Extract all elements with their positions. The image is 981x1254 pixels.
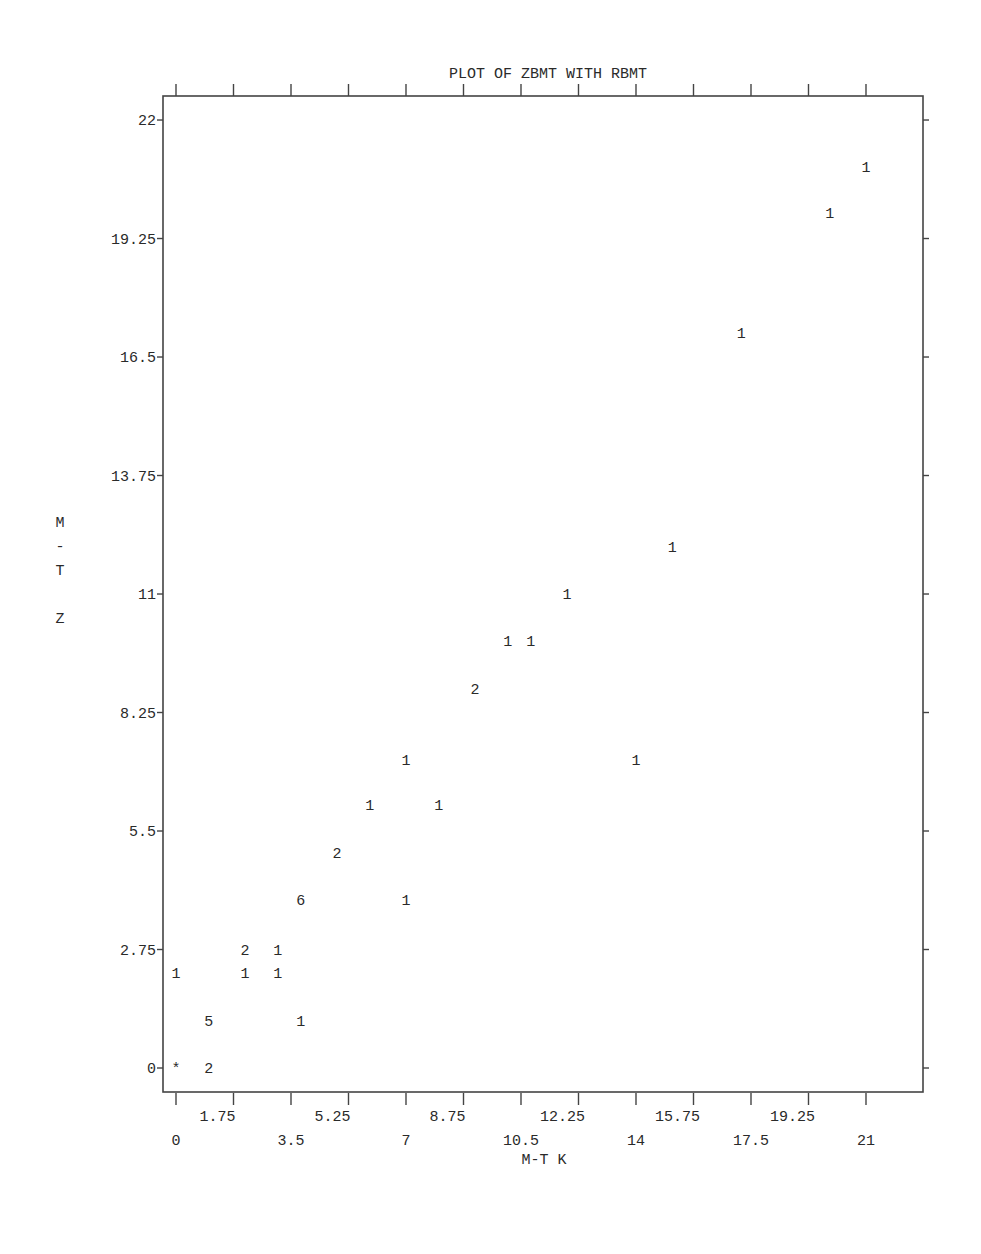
data-point: 1 bbox=[861, 160, 870, 177]
x-tick-label: 19.25 bbox=[770, 1109, 815, 1126]
data-points: *25111121612111121111111 bbox=[171, 160, 870, 1078]
data-point: 1 bbox=[273, 943, 282, 960]
y-axis-ticks: 02.755.58.251113.7516.519.2522 bbox=[111, 113, 163, 1078]
x-tick-label: 7 bbox=[401, 1133, 410, 1150]
x-tick-label: 14 bbox=[627, 1133, 645, 1150]
chart-title: PLOT OF ZBMT WITH RBMT bbox=[449, 66, 647, 83]
data-point: 1 bbox=[526, 634, 535, 651]
data-point: 2 bbox=[204, 1061, 213, 1078]
x-tick-label: 10.5 bbox=[503, 1133, 539, 1150]
scatter-chart: PLOT OF ZBMT WITH RBMT 01.753.55.2578.75… bbox=[0, 0, 981, 1254]
x-axis-ticks: 01.753.55.2578.7510.512.251415.7517.519.… bbox=[171, 1093, 875, 1150]
y-label-char: T bbox=[55, 563, 64, 580]
top-axis-ticks bbox=[176, 84, 866, 96]
x-tick-label: 0 bbox=[171, 1133, 180, 1150]
data-point: 1 bbox=[365, 798, 374, 815]
y-tick-label: 13.75 bbox=[111, 469, 156, 486]
data-point: 1 bbox=[668, 540, 677, 557]
y-label-char: Z bbox=[55, 611, 64, 628]
x-tick-label: 17.5 bbox=[733, 1133, 769, 1150]
x-tick-label: 21 bbox=[857, 1133, 875, 1150]
data-point: 1 bbox=[296, 1014, 305, 1031]
data-point: 1 bbox=[503, 634, 512, 651]
y-tick-label: 19.25 bbox=[111, 232, 156, 249]
x-tick-label: 1.75 bbox=[199, 1109, 235, 1126]
data-point: 1 bbox=[825, 206, 834, 223]
x-tick-label: 3.5 bbox=[277, 1133, 304, 1150]
data-point: 1 bbox=[434, 798, 443, 815]
data-point: 2 bbox=[332, 846, 341, 863]
x-tick-label: 8.75 bbox=[429, 1109, 465, 1126]
y-axis-label: M-TZ bbox=[55, 515, 64, 628]
y-tick-label: 0 bbox=[147, 1061, 156, 1078]
data-point: 6 bbox=[296, 893, 305, 910]
y-label-char: - bbox=[55, 539, 64, 556]
data-point: 1 bbox=[240, 966, 249, 983]
data-point: 1 bbox=[273, 966, 282, 983]
y-tick-label: 16.5 bbox=[120, 350, 156, 367]
data-point: 1 bbox=[171, 966, 180, 983]
y-tick-label: 2.75 bbox=[120, 943, 156, 960]
x-tick-label: 15.75 bbox=[655, 1109, 700, 1126]
right-axis-ticks bbox=[923, 120, 929, 1068]
data-point: 2 bbox=[470, 682, 479, 699]
y-label-char: M bbox=[55, 515, 64, 532]
x-tick-label: 12.25 bbox=[540, 1109, 585, 1126]
y-tick-label: 11 bbox=[138, 587, 156, 604]
data-point: 5 bbox=[204, 1014, 213, 1031]
data-point: 1 bbox=[562, 587, 571, 604]
data-point: * bbox=[171, 1061, 180, 1078]
data-point: 1 bbox=[737, 326, 746, 343]
y-tick-label: 5.5 bbox=[129, 824, 156, 841]
x-axis-label: M-T K bbox=[521, 1152, 566, 1169]
x-tick-label: 5.25 bbox=[314, 1109, 350, 1126]
y-tick-label: 8.25 bbox=[120, 706, 156, 723]
data-point: 1 bbox=[401, 753, 410, 770]
data-point: 1 bbox=[631, 753, 640, 770]
data-point: 1 bbox=[401, 893, 410, 910]
data-point: 2 bbox=[240, 943, 249, 960]
y-tick-label: 22 bbox=[138, 113, 156, 130]
